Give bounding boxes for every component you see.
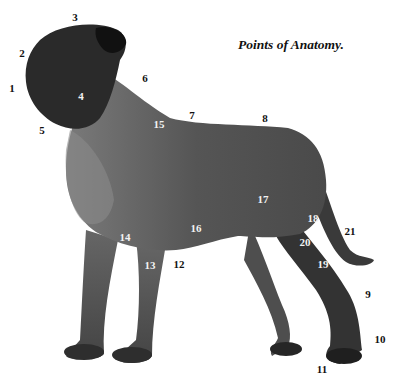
- paw: [64, 344, 104, 360]
- anatomy-point-13: 13: [145, 260, 156, 271]
- anatomy-point-11: 11: [317, 364, 327, 375]
- front-leg-far: [66, 230, 118, 360]
- anatomy-point-21: 21: [345, 226, 356, 237]
- anatomy-point-16: 16: [191, 223, 202, 234]
- anatomy-point-8: 8: [262, 113, 268, 124]
- anatomy-point-18: 18: [308, 213, 319, 224]
- anatomy-point-19: 19: [318, 259, 329, 270]
- paw: [112, 347, 152, 363]
- anatomy-point-14: 14: [120, 232, 131, 243]
- anatomy-point-20: 20: [300, 237, 311, 248]
- anatomy-diagram: Points of Anatomy. 123456789101112131415…: [0, 0, 394, 383]
- anatomy-point-17: 17: [258, 194, 269, 205]
- anatomy-point-5: 5: [39, 125, 45, 136]
- anatomy-point-2: 2: [19, 48, 25, 59]
- paw: [326, 348, 362, 364]
- front-leg-near: [116, 240, 166, 363]
- anatomy-point-15: 15: [154, 119, 165, 130]
- anatomy-point-3: 3: [72, 12, 78, 23]
- anatomy-point-7: 7: [189, 110, 195, 121]
- anatomy-point-4: 4: [78, 91, 84, 102]
- anatomy-point-6: 6: [142, 73, 148, 84]
- paw: [270, 342, 302, 356]
- diagram-title: Points of Anatomy.: [238, 37, 344, 53]
- anatomy-point-9: 9: [365, 289, 371, 300]
- dog-illustration: [0, 0, 394, 383]
- anatomy-point-12: 12: [174, 259, 185, 270]
- anatomy-point-1: 1: [9, 83, 15, 94]
- anatomy-point-10: 10: [375, 334, 386, 345]
